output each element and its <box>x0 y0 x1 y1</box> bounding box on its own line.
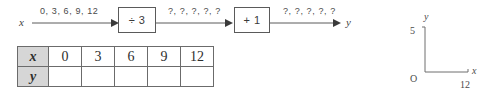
flow-output-label: y <box>346 17 351 28</box>
graph-origin-label: O <box>410 74 417 84</box>
graph-x-tick-label: 12 <box>460 80 470 90</box>
diagram-canvas: x 0, 3, 6, 9, 12 ÷ 3 ?, ?, ?, ?, ? + 1 ?… <box>0 0 500 91</box>
flow-arrow-3 <box>270 17 342 29</box>
table-cell-y-3[interactable] <box>148 67 181 87</box>
table-cell-x-3[interactable]: 9 <box>148 47 181 67</box>
flow-arrow-1 <box>32 17 120 29</box>
coordinate-graph: y 5 O x 12 <box>400 10 496 91</box>
arrow-caption-output: ?, ?, ?, ?, ? <box>283 7 336 16</box>
table-row: x 0 3 6 9 12 <box>18 47 214 67</box>
table-cell-y-0[interactable] <box>49 67 82 87</box>
arrow-caption-middle: ?, ?, ?, ?, ? <box>168 7 221 16</box>
table-cell-x-1[interactable]: 3 <box>82 47 115 67</box>
operation-box-add[interactable]: + 1 <box>234 7 270 33</box>
table-cell-x-0[interactable]: 0 <box>49 47 82 67</box>
table-cell-y-2[interactable] <box>115 67 148 87</box>
table-cell-x-4[interactable]: 12 <box>181 47 214 67</box>
flow-input-label: x <box>19 17 24 28</box>
table-cell-y-4[interactable] <box>181 67 214 87</box>
table-header-x: x <box>18 47 49 67</box>
table-cell-y-1[interactable] <box>82 67 115 87</box>
table-row: y <box>18 67 214 87</box>
flow-arrow-2 <box>156 17 234 29</box>
table-cell-x-2[interactable]: 6 <box>115 47 148 67</box>
graph-x-axis-label: x <box>472 66 476 76</box>
operation-box-divide[interactable]: ÷ 3 <box>118 7 156 33</box>
table-header-y: y <box>18 67 49 87</box>
xy-value-table: x 0 3 6 9 12 y <box>17 46 214 87</box>
arrow-caption-input: 0, 3, 6, 9, 12 <box>40 7 98 16</box>
